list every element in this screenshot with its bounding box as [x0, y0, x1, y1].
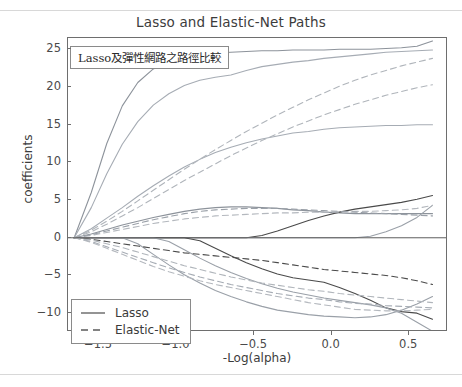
y-tick-label: 10: [27, 154, 61, 168]
y-tick-mark: [67, 86, 71, 87]
page-bottom-rule: [0, 374, 462, 375]
y-tick-label: −5: [27, 267, 61, 281]
dashed-line-icon: [80, 325, 106, 335]
path-line: [74, 85, 432, 238]
legend-label: Elastic-Net: [115, 323, 180, 337]
path-line: [74, 238, 432, 303]
path-line: [74, 205, 432, 237]
y-tick-mark: [67, 124, 71, 125]
chart-figure: Lasso and Elastic-Net Paths coefficients…: [0, 10, 462, 374]
y-tick-mark: [67, 274, 71, 275]
paths-svg: [68, 38, 447, 331]
y-tick-label: 20: [27, 79, 61, 93]
y-tick-mark: [67, 161, 71, 162]
legend-item: Elastic-Net: [80, 321, 180, 338]
annotation-box: Lasso及彈性網路之路徑比較: [70, 46, 229, 69]
y-tick-mark: [67, 237, 71, 238]
y-tick-label: 15: [27, 117, 61, 131]
y-axis-tick-labels: 2520151050−5−10: [25, 37, 61, 331]
legend: LassoElastic-Net: [71, 299, 191, 344]
x-tick-mark: [253, 331, 254, 335]
path-line: [74, 196, 432, 238]
x-tick-mark: [331, 331, 332, 335]
y-tick-label: 25: [27, 41, 61, 55]
figure-page: Lasso and Elastic-Net Paths coefficients…: [0, 0, 462, 387]
legend-label: Lasso: [115, 306, 149, 320]
solid-line-icon: [80, 308, 106, 318]
x-tick-label: 0.0: [301, 337, 361, 351]
page-title: Lasso and Elastic-Net Paths: [0, 14, 462, 30]
x-axis-label: -Log(alpha): [67, 351, 447, 365]
y-tick-mark: [67, 199, 71, 200]
plot-area: [67, 37, 447, 331]
y-tick-mark: [67, 312, 71, 313]
path-line: [74, 207, 432, 238]
path-line: [74, 50, 432, 238]
x-tick-mark: [408, 331, 409, 335]
y-tick-label: 5: [27, 192, 61, 206]
x-tick-label: 0.5: [378, 337, 438, 351]
x-tick-label: −0.5: [223, 337, 283, 351]
path-line: [74, 205, 432, 237]
y-tick-mark: [67, 48, 71, 49]
y-tick-label: −10: [27, 305, 61, 319]
legend-item: Lasso: [80, 304, 180, 321]
y-tick-label: 0: [27, 230, 61, 244]
path-line: [74, 125, 432, 238]
path-line: [74, 238, 432, 285]
